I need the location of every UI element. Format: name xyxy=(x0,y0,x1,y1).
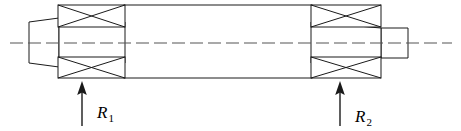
main-shaft-body xyxy=(124,5,312,78)
diagram-canvas: R1 R2 xyxy=(0,0,461,131)
bearing-right-upper xyxy=(311,5,381,27)
reaction-label-r1: R1 xyxy=(96,103,114,124)
shaft-bearing-diagram: R1 R2 xyxy=(0,0,461,131)
bearing-left-lower xyxy=(58,57,125,78)
bearing-left-upper xyxy=(58,5,125,27)
reaction-label-r1-symbol: R xyxy=(96,103,108,122)
reaction-arrow-r2 xyxy=(335,81,345,126)
reaction-arrow-r1 xyxy=(77,81,87,126)
reaction-label-r2-symbol: R xyxy=(354,107,366,126)
reaction-label-r1-subscript: 1 xyxy=(108,112,114,124)
bearing-right-lower xyxy=(311,57,381,78)
reaction-label-r2-subscript: 2 xyxy=(366,116,372,128)
reaction-label-r2: R2 xyxy=(354,107,372,128)
